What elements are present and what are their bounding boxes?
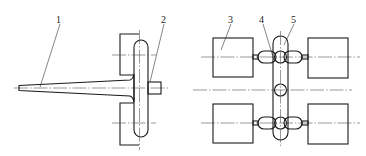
box-bottom-left	[213, 104, 253, 143]
label-2: 2	[161, 14, 166, 25]
label-3: 3	[228, 14, 233, 25]
box-bottom-right	[308, 104, 348, 144]
left-view: 1 2	[14, 14, 170, 150]
box-top-right	[308, 38, 348, 78]
leader-5	[284, 24, 294, 45]
left-vertical-arm	[134, 40, 148, 137]
lower-bracket	[120, 103, 139, 145]
leader-3	[221, 24, 231, 50]
upper-bracket	[120, 34, 139, 75]
mechanical-diagram: 1 2 3 4 5	[0, 0, 366, 156]
leader-1	[40, 24, 60, 87]
label-5: 5	[291, 14, 296, 25]
right-view: 3 4 5	[193, 14, 360, 148]
label-4: 4	[259, 14, 264, 25]
box-top-left	[213, 38, 253, 77]
leader-4	[263, 24, 274, 60]
label-1: 1	[56, 14, 61, 25]
leader-2	[150, 24, 164, 82]
